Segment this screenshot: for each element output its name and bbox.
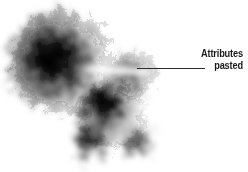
figure-root: Attributes pasted xyxy=(0,0,248,172)
annotation-leader-line xyxy=(137,68,205,69)
annotation-label: Attributes pasted xyxy=(201,47,243,71)
blob-svg xyxy=(0,0,248,172)
large-lobe-dark-core xyxy=(24,30,76,86)
annotation-label-line-1: Attributes xyxy=(201,47,243,59)
fractal-blob-artwork xyxy=(0,0,248,172)
annotation-label-line-2: pasted xyxy=(201,59,243,71)
